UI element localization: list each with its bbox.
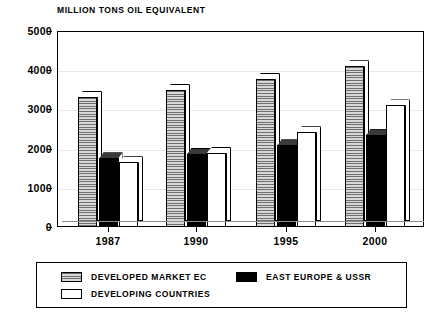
bar-fill <box>100 159 117 226</box>
y-tick-mark <box>47 149 52 150</box>
bar-1987-series-0 <box>78 97 97 227</box>
x-tick-label-1990: 1990 <box>184 235 209 247</box>
y-tick-label: 5000 <box>6 25 52 37</box>
bar-1995-series-2 <box>297 132 316 227</box>
legend-item-2: DEVELOPING COUNTRIES <box>61 289 210 299</box>
bar-1995-series-1 <box>277 145 296 227</box>
x-tick-mark <box>375 227 376 232</box>
bar-fill <box>188 155 205 226</box>
bar-1990-series-2 <box>207 153 226 227</box>
legend-label-2: DEVELOPING COUNTRIES <box>91 289 210 299</box>
bar-1995-series-0 <box>256 79 275 227</box>
legend-swatch-solid-white-icon <box>61 289 82 299</box>
chart-root: MILLION TONS OIL EQUIVALENT 010002000300… <box>0 0 443 316</box>
y-tick-label: 4000 <box>6 64 52 76</box>
y-tick-mark <box>47 188 52 189</box>
bar-1987-series-2 <box>119 162 138 227</box>
bar-fill <box>346 67 363 226</box>
x-tick-mark <box>108 227 109 232</box>
bar-2000-series-1 <box>366 135 385 227</box>
x-tick-label-1987: 1987 <box>96 235 121 247</box>
y-tick-label: 0 <box>6 221 52 233</box>
chart-title: MILLION TONS OIL EQUIVALENT <box>57 5 206 15</box>
bar-2000-series-2 <box>386 105 405 227</box>
bar-fill <box>120 163 137 226</box>
bar-1987-series-1 <box>99 158 118 227</box>
legend-swatch-solid-black-icon <box>236 272 257 282</box>
bar-side-face <box>405 99 410 221</box>
bar-fill <box>208 154 225 226</box>
y-tick-mark <box>47 31 52 32</box>
y-tick-label: 2000 <box>6 143 52 155</box>
bar-1990-series-1 <box>187 154 206 227</box>
bar-fill <box>298 133 315 226</box>
y-tick-label: 1000 <box>6 182 52 194</box>
y-tick-mark <box>47 109 52 110</box>
legend-item-0: DEVELOPED MARKET EC <box>61 272 207 282</box>
bar-fill <box>278 146 295 226</box>
y-tick-label: 3000 <box>6 103 52 115</box>
bar-side-face <box>316 126 321 221</box>
bar-fill <box>167 91 184 226</box>
plot-floor-edge <box>62 221 424 222</box>
y-tick-mark <box>47 70 52 71</box>
bar-side-face <box>138 156 143 221</box>
bar-side-face <box>226 147 231 221</box>
legend-item-1: EAST EUROPE & USSR <box>236 272 371 282</box>
x-tick-mark <box>286 227 287 232</box>
x-tick-label-2000: 2000 <box>363 235 388 247</box>
x-tick-mark <box>196 227 197 232</box>
legend-swatch-hatched-grey-icon <box>61 272 82 282</box>
bar-fill <box>387 106 404 226</box>
legend: DEVELOPED MARKET EC EAST EUROPE & USSR D… <box>36 262 407 308</box>
bar-1990-series-0 <box>166 90 185 227</box>
bar-2000-series-0 <box>345 66 364 227</box>
bar-fill <box>79 98 96 226</box>
bar-fill <box>257 80 274 226</box>
legend-label-0: DEVELOPED MARKET EC <box>91 272 207 282</box>
x-tick-label-1995: 1995 <box>274 235 299 247</box>
y-axis: 010002000300040005000 <box>0 31 52 227</box>
legend-label-1: EAST EUROPE & USSR <box>266 272 371 282</box>
y-tick-mark <box>47 227 52 228</box>
bar-fill <box>367 136 384 226</box>
